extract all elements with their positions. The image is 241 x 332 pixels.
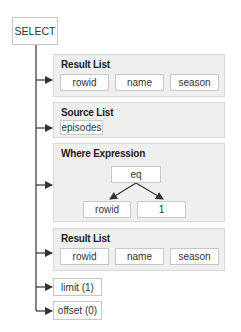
result-list-title-1: Result List [61, 59, 110, 70]
where-expression-panel: Where Expression eq rowid 1 [53, 143, 225, 222]
result-item-rowid: rowid [60, 74, 109, 91]
operator-eq-node: eq [111, 166, 161, 183]
offset-node: offset (0) [53, 301, 102, 320]
source-item-episodes: episodes [60, 120, 103, 135]
result-item-season-2: season [170, 248, 219, 265]
result-item-name: name [115, 74, 164, 91]
source-list-panel: Source List episodes [53, 102, 225, 138]
select-node: SELECT [12, 17, 58, 45]
limit-node: limit (1) [53, 278, 102, 296]
source-list-title: Source List [61, 107, 113, 118]
result-list-panel-2: Result List rowid name season [53, 228, 225, 271]
operand-rowid-node: rowid [83, 201, 131, 218]
result-item-name-2: name [115, 248, 164, 265]
operand-1-node: 1 [137, 201, 186, 218]
select-label: SELECT [15, 25, 56, 37]
result-list-title-2: Result List [61, 233, 110, 244]
result-list-panel-1: Result List rowid name season [53, 54, 225, 97]
result-item-season: season [170, 74, 219, 91]
result-item-rowid-2: rowid [60, 248, 109, 265]
